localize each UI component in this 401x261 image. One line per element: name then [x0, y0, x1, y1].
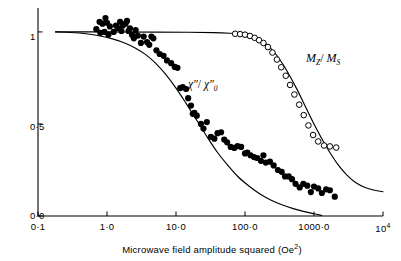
x-tick-label-1-0: 1·0 [100, 222, 115, 232]
data-point-mz-16 [306, 123, 312, 129]
data-point-mz-20 [327, 144, 333, 150]
data-point-mz-11 [283, 73, 289, 79]
x-tick-label-100-0: 100·0 [232, 222, 258, 232]
data-point-chi-75 [304, 183, 310, 189]
data-point-chi-13 [118, 28, 124, 34]
data-point-chi-82 [332, 194, 338, 200]
x-axis-title: Microwave field amplitude squared (Oe2) [122, 243, 302, 255]
x-axis-title-tail: ) [298, 244, 301, 255]
x-tick-label-1000-0: 1000·0 [298, 222, 329, 232]
x-tick-label-0-1: 0·1 [31, 222, 46, 232]
data-point-mz-13 [292, 92, 298, 98]
data-point-chi-56 [238, 144, 244, 150]
plot-canvas [0, 0, 401, 261]
data-point-chi-7 [105, 32, 111, 38]
data-point-chi-18 [127, 25, 133, 31]
theory-curve-0 [56, 32, 322, 216]
figure-container: 1 0·5 0·0 0·1 1·0 10·0 100·0 1000·0 104 … [0, 0, 401, 261]
data-point-chi-35 [174, 65, 180, 71]
y-tick-label-1: 1 [30, 32, 36, 42]
data-point-chi-63 [260, 152, 266, 158]
data-point-chi-22 [135, 33, 141, 39]
axis-lines [38, 8, 383, 216]
data-point-chi-45 [200, 125, 206, 131]
data-point-mz-12 [287, 82, 293, 88]
data-point-chi-26 [146, 42, 152, 48]
data-point-chi-16 [124, 18, 130, 24]
y-tick-label-0-0: 0·0 [30, 211, 45, 221]
data-point-chi-24 [141, 33, 147, 39]
data-point-chi-8 [107, 23, 113, 29]
x-tick-label-10000-exponent: 4 [386, 222, 390, 229]
x-axis-title-text: Microwave field amplitude squared (Oe [122, 244, 294, 255]
data-point-mz-15 [301, 112, 307, 118]
series-chi-points [93, 15, 338, 200]
data-point-chi-76 [308, 189, 314, 195]
series-mz-points [232, 31, 339, 150]
data-point-chi-50 [218, 129, 224, 135]
data-point-mz-17 [310, 132, 316, 138]
data-point-mz-18 [315, 139, 321, 145]
curve-label-chi: χ″/ χ″0 [188, 79, 218, 93]
data-point-chi-43 [194, 113, 200, 119]
data-point-chi-46 [204, 119, 210, 125]
data-point-chi-39 [185, 95, 191, 101]
data-point-chi-40 [188, 102, 194, 108]
data-point-chi-48 [211, 136, 217, 142]
data-point-mz-10 [278, 64, 284, 70]
data-point-chi-21 [133, 27, 139, 33]
data-point-chi-28 [150, 35, 156, 41]
x-tick-label-10000-mantissa: 10 [375, 223, 386, 234]
data-point-mz-19 [321, 143, 327, 149]
mz-denominator: M [327, 51, 337, 65]
data-point-mz-21 [333, 145, 339, 151]
x-tick-label-10-0: 10·0 [166, 222, 186, 232]
data-point-chi-81 [327, 187, 333, 193]
mz-denominator-subscript: S [337, 58, 341, 67]
data-point-mz-8 [270, 50, 276, 56]
x-axis-ticks [38, 212, 383, 217]
x-tick-label-10000: 104 [375, 222, 390, 234]
data-point-mz-14 [296, 102, 302, 108]
y-tick-label-0-5: 0·5 [30, 122, 45, 132]
data-point-chi-23 [138, 40, 144, 46]
mz-numerator: M [306, 51, 316, 65]
chi-denominator: χ″ [204, 78, 214, 90]
chi-denominator-subscript: 0 [214, 84, 218, 93]
data-point-chi-66 [271, 162, 277, 168]
chi-numerator: χ″ [188, 78, 198, 90]
data-point-mz-9 [274, 57, 280, 63]
curve-label-mz-ms: MZ/ MS [306, 52, 340, 67]
data-point-mz-7 [265, 44, 271, 50]
